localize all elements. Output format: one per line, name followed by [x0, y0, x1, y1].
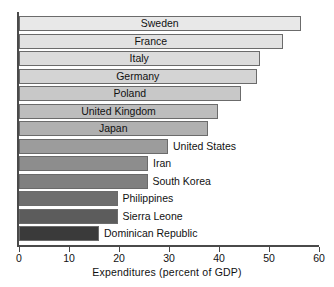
x-axis-tick-label: 40 — [204, 252, 234, 264]
bar-label: France — [19, 34, 283, 49]
bar-row: United States — [19, 139, 319, 154]
x-axis-tick-label: 30 — [154, 252, 184, 264]
bar-label: Dominican Republic — [104, 226, 197, 241]
x-axis-tick-label: 20 — [104, 252, 134, 264]
bar-row: Germany — [19, 69, 319, 84]
bar-row: United Kingdom — [19, 104, 319, 119]
x-axis-tick-label: 10 — [54, 252, 84, 264]
bar-label: Poland — [19, 86, 241, 101]
bar-label: Sweden — [19, 16, 301, 31]
bar-row: Sierra Leone — [19, 209, 319, 224]
x-axis-line — [17, 245, 319, 247]
bar-label: Germany — [19, 69, 257, 84]
bar-row: Sweden — [19, 16, 319, 31]
bar-label: Japan — [19, 121, 208, 136]
x-axis-tick-label: 60 — [304, 252, 334, 264]
bar-label: United Kingdom — [19, 104, 218, 119]
bar-chart: SwedenFranceItalyGermanyPolandUnited Kin… — [0, 0, 334, 287]
bar-label: Italy — [19, 51, 260, 66]
bar — [19, 191, 118, 206]
bar — [19, 156, 148, 171]
bar — [19, 174, 148, 189]
bar-label: South Korea — [153, 174, 211, 189]
bar-label: United States — [173, 139, 236, 154]
bar-row: Iran — [19, 156, 319, 171]
bar-row: Philippines — [19, 191, 319, 206]
bar — [19, 209, 118, 224]
bar — [19, 226, 99, 241]
x-axis-tick-label: 0 — [4, 252, 34, 264]
bar-label: Iran — [153, 156, 171, 171]
x-axis-tick-label: 50 — [254, 252, 284, 264]
bar-row: Japan — [19, 121, 319, 136]
plot-area: SwedenFranceItalyGermanyPolandUnited Kin… — [19, 14, 319, 245]
bar-row: Dominican Republic — [19, 226, 319, 241]
bar-row: France — [19, 34, 319, 49]
x-axis-title: Expenditures (percent of GDP) — [0, 266, 334, 278]
bar-row: Italy — [19, 51, 319, 66]
bar-row: South Korea — [19, 174, 319, 189]
bar-label: Sierra Leone — [123, 209, 183, 224]
bar — [19, 139, 168, 154]
bar-row: Poland — [19, 86, 319, 101]
bar-label: Philippines — [123, 191, 174, 206]
